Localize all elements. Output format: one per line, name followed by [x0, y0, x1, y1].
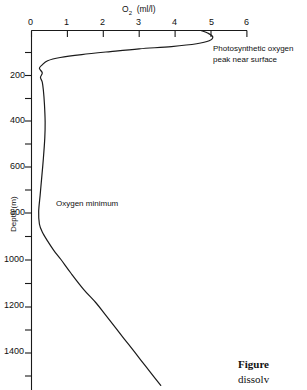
oxygen-depth-profile-figure: O2 (ml/l) 0 1 2 3 4 5 6 200 400 600 800 … — [0, 0, 307, 390]
plot-svg — [0, 0, 307, 390]
x-axis-ticks — [32, 31, 247, 38]
oxygen-profile-curve — [39, 31, 213, 386]
y-axis-ticks — [25, 53, 32, 377]
